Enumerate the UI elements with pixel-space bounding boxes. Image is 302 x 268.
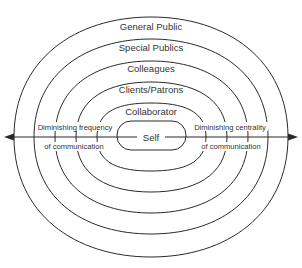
left-arrowhead-icon <box>4 134 14 141</box>
label-special-publics: Special Publics <box>119 42 184 53</box>
label-collaborator: Collaborator <box>125 106 177 117</box>
label-colleagues: Colleagues <box>127 63 175 74</box>
axis-left-label-line2: of communication <box>44 142 104 151</box>
axis-left-label-line1: Diminishing frequency <box>38 123 113 132</box>
label-general-public: General Public <box>120 21 183 32</box>
axis-right-label-line1: Diminishing centrality <box>194 123 266 132</box>
axis-right-label-line2: of communication <box>201 142 261 151</box>
label-self: Self <box>143 132 160 143</box>
right-arrowhead-icon <box>288 134 298 141</box>
label-clients-patrons: Clients/Patrons <box>119 84 184 95</box>
communication-rings-diagram: General Public Special Publics Colleague… <box>0 0 302 268</box>
